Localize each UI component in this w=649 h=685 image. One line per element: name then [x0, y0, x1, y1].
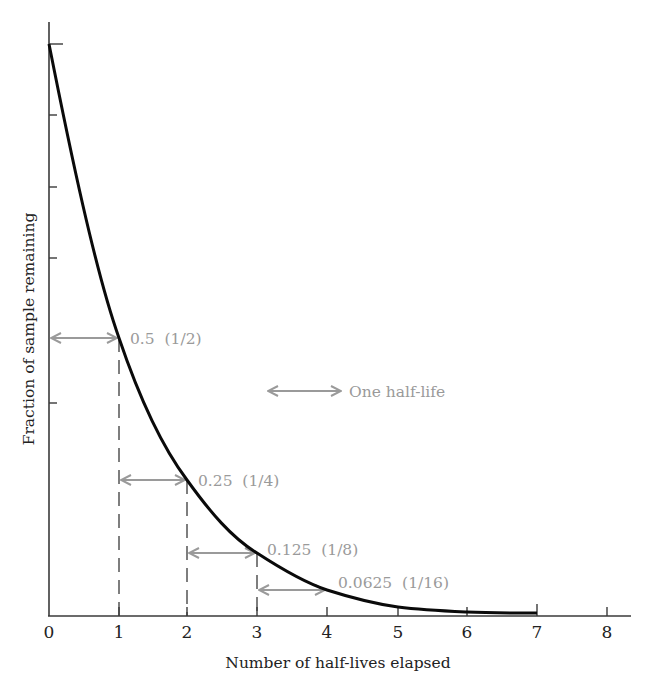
- x-tick-label: 7: [532, 622, 543, 642]
- legend-label: One half-life: [349, 383, 445, 401]
- annotation-quarter: 0.25 (1/4): [198, 472, 279, 490]
- y-axis-label: Fraction of sample remaining: [20, 213, 38, 446]
- annotation-sixteenth: 0.0625 (1/16): [338, 574, 449, 592]
- half-life-chart: 0 1 2 3 4 5 6 7 8 Number of half-lives e…: [0, 0, 649, 685]
- annotation-eighth: 0.125 (1/8): [267, 541, 358, 559]
- decay-curve: [49, 44, 537, 613]
- x-tick-label: 8: [602, 622, 613, 642]
- x-tick-label: 4: [322, 622, 333, 642]
- x-tick-label: 3: [252, 622, 263, 642]
- annotation-half: 0.5 (1/2): [130, 330, 202, 348]
- x-tick-label: 1: [114, 622, 125, 642]
- x-tick-label: 5: [393, 622, 404, 642]
- x-tick-label: 2: [182, 622, 193, 642]
- annotations: 0.5 (1/2) 0.25 (1/4) 0.125 (1/8) 0.0625 …: [130, 330, 449, 592]
- x-tick-labels: 0 1 2 3 4 5 6 7 8: [44, 622, 613, 642]
- x-tick-label: 0: [44, 622, 55, 642]
- legend: One half-life: [268, 383, 445, 401]
- x-tick-label: 6: [462, 622, 473, 642]
- x-axis-label: Number of half-lives elapsed: [225, 654, 450, 672]
